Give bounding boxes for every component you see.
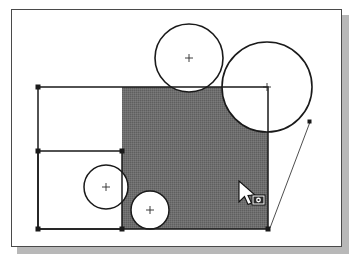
handle-top-left[interactable] [36, 85, 41, 90]
gray-fill-body [12, 10, 341, 246]
screenshot-root [0, 0, 356, 267]
handle-notch-corner[interactable] [120, 149, 125, 154]
handle-bottom-right[interactable] [266, 227, 271, 232]
handle-bottom-mid[interactable] [120, 227, 125, 232]
handle-bottom-left[interactable] [36, 227, 41, 232]
vector-drawing[interactable] [12, 10, 341, 246]
handle-mid-left[interactable] [36, 149, 41, 154]
gray-l-shape[interactable] [12, 10, 341, 246]
handle-right-edge[interactable] [308, 120, 312, 124]
drawing-canvas[interactable] [11, 9, 342, 247]
